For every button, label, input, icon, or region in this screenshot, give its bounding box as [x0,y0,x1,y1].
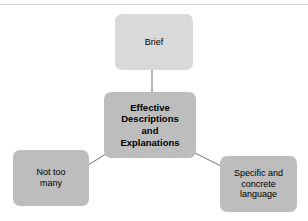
node-specific-and-concrete-language[interactable]: Specific and concrete language [220,156,297,212]
diagram-canvas: Brief Effective Descriptions and Explana… [0,0,308,221]
page-top-rule [0,4,308,5]
node-specific-and-concrete-language-label: Specific and concrete language [231,168,286,200]
node-brief[interactable]: Brief [115,14,193,70]
node-effective-descriptions-and-explanations-label: Effective Descriptions and Explanations [117,102,182,148]
node-not-too-many[interactable]: Not too many [13,150,89,206]
node-brief-label: Brief [142,37,167,48]
connector-center-to-specific-and-concrete-language [195,153,221,166]
node-not-too-many-label: Not too many [33,167,68,188]
connector-center-to-not-too-many [88,154,106,165]
node-effective-descriptions-and-explanations[interactable]: Effective Descriptions and Explanations [104,92,196,158]
